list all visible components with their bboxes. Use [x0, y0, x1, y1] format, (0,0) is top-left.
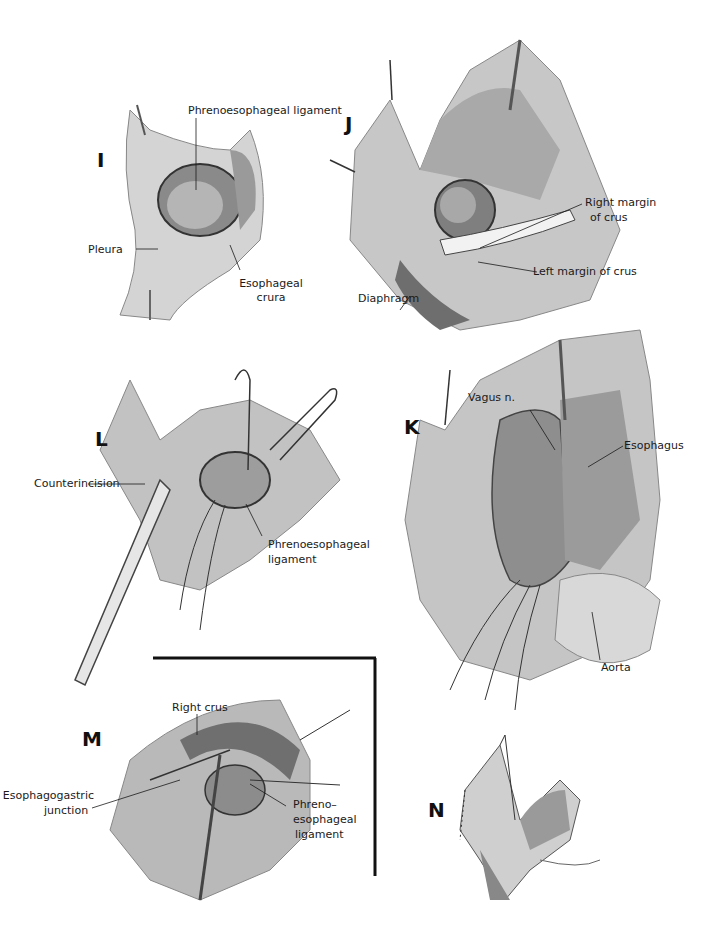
label-esophageal: Esophageal	[236, 277, 306, 291]
label-phrenoesophageal-l: Phrenoesophageal	[268, 538, 370, 552]
label-crura: crura	[236, 291, 306, 305]
panel-l-drawing	[75, 370, 340, 685]
panel-letter-j: J	[345, 112, 352, 136]
panel-letter-m: M	[82, 727, 102, 751]
label-phreno: Phreno–	[293, 798, 337, 812]
panel-letter-i: I	[97, 148, 104, 172]
label-diaphragm: Diaphragm	[358, 292, 419, 306]
label-junction: junction	[44, 804, 88, 818]
label-aorta: Aorta	[601, 661, 631, 675]
label-right-crus: Right crus	[172, 701, 228, 715]
label-phrenoesophageal-ligament-i: Phrenoesophageal ligament	[188, 104, 342, 118]
label-ligament-m: ligament	[295, 828, 344, 842]
label-counterincision: Counterincision	[34, 477, 120, 491]
label-of-crus: of crus	[590, 211, 627, 225]
label-esophagus: Esophagus	[624, 439, 684, 453]
label-esophageal-m: esophageal	[293, 813, 356, 827]
label-vagus-n: Vagus n.	[468, 391, 515, 405]
label-ligament-l: ligament	[268, 553, 317, 567]
label-right-margin: Right margin	[585, 196, 656, 210]
anatomical-illustration	[0, 0, 716, 941]
label-esophagogastric: Esophagogastric	[3, 789, 94, 803]
label-pleura: Pleura	[88, 243, 123, 257]
panel-n-drawing	[460, 735, 600, 900]
panel-j-drawing	[330, 40, 620, 330]
panel-letter-k: K	[404, 415, 420, 439]
panel-letter-l: L	[95, 427, 108, 451]
panel-k-drawing	[405, 330, 660, 710]
panel-letter-n: N	[428, 798, 445, 822]
label-left-margin-of-crus: Left margin of crus	[533, 265, 637, 279]
